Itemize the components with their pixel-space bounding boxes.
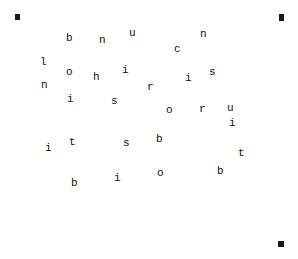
puzzle-letter: s xyxy=(111,96,118,107)
puzzle-letter: c xyxy=(174,44,181,55)
puzzle-letter: i xyxy=(114,173,121,184)
puzzle-letter: r xyxy=(147,82,154,93)
puzzle-letter: u xyxy=(227,103,234,114)
puzzle-letter: o xyxy=(66,67,73,78)
border-corner-nick-top-right xyxy=(279,14,284,21)
puzzle-letter: i xyxy=(67,94,74,105)
puzzle-letter: b xyxy=(217,166,224,177)
border-corner-nick-top-left xyxy=(15,14,20,20)
puzzle-letter: s xyxy=(123,138,130,149)
puzzle-letter: s xyxy=(209,67,216,78)
puzzle-letter: r xyxy=(199,104,206,115)
puzzle-letter: t xyxy=(238,148,245,159)
puzzle-letter: o xyxy=(166,105,173,116)
puzzle-letter: i xyxy=(185,73,192,84)
puzzle-letter: i xyxy=(45,143,52,154)
puzzle-letter: n xyxy=(99,35,106,46)
puzzle-canvas: bnuncloihisnrisoruiitsbtobib xyxy=(0,0,298,259)
puzzle-letter: t xyxy=(69,137,76,148)
puzzle-letter: i xyxy=(122,65,129,76)
puzzle-letter: u xyxy=(129,28,136,39)
puzzle-letter: l xyxy=(40,57,47,68)
puzzle-letter: i xyxy=(229,118,236,129)
puzzle-letter: b xyxy=(71,178,78,189)
puzzle-border xyxy=(16,15,283,245)
border-corner-nick-bottom-right xyxy=(278,241,284,247)
puzzle-letter: b xyxy=(66,33,73,44)
puzzle-letter: o xyxy=(157,168,164,179)
puzzle-letter: h xyxy=(93,72,100,83)
puzzle-letter: b xyxy=(156,134,163,145)
puzzle-letter: n xyxy=(41,80,48,91)
puzzle-letter: n xyxy=(200,29,207,40)
